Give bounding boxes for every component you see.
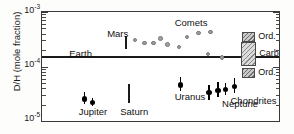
neptune-point-marker <box>215 88 220 93</box>
y-minor-tick <box>42 34 46 35</box>
y-tick-label-1e-5: 10-5 <box>2 113 40 123</box>
neptune-point-marker <box>206 90 211 95</box>
y-tick-label-group: 10-3 10-4 10-5 <box>0 0 40 134</box>
uranus-label: Uranus <box>175 91 206 102</box>
jupiter-label: Jupiter <box>79 106 108 117</box>
y-minor-tick <box>42 14 46 15</box>
y-minor-tick-right <box>276 75 280 76</box>
neptune-point-marker <box>232 84 237 89</box>
y-minor-tick <box>42 88 46 89</box>
chondrite-box-ord-0 <box>242 32 255 41</box>
y-minor-tick-right <box>276 83 280 84</box>
saturn-label: Saturn <box>120 106 148 117</box>
uranus-point-marker <box>178 82 183 87</box>
y-minor-tick <box>42 79 46 80</box>
chondrites-label: Chondrites <box>230 95 276 106</box>
comets-label: Comets <box>175 17 208 28</box>
y-minor-tick <box>42 69 46 70</box>
y-minor-tick <box>42 24 46 25</box>
y-major-tick <box>42 121 48 122</box>
y-minor-tick-right <box>276 69 280 70</box>
y-minor-tick-right <box>276 34 280 35</box>
plot-area: Ord.Carb.Ord. EarthMarsCometsJupiterSatu… <box>41 11 280 122</box>
comet-marker <box>185 35 190 40</box>
earth-label: Earth <box>69 48 92 59</box>
y-minor-tick <box>42 40 46 41</box>
y-minor-tick-right <box>276 79 280 80</box>
y-major-tick <box>42 12 48 13</box>
comet-marker <box>196 31 201 36</box>
y-minor-tick <box>42 17 46 18</box>
jupiter-point-marker <box>90 100 95 105</box>
y-minor-tick-right <box>276 14 280 15</box>
y-major-tick <box>42 67 48 68</box>
y-minor-tick <box>42 105 46 106</box>
comet-marker <box>142 41 147 46</box>
y-minor-tick-right <box>276 88 280 89</box>
comet-marker <box>177 45 182 50</box>
chondrite-box-label: Ord. <box>258 67 276 77</box>
comet-marker <box>220 55 225 60</box>
comet-marker <box>208 30 213 35</box>
comet-marker <box>158 36 163 41</box>
chondrite-box-label: Carb. <box>259 48 280 58</box>
chondrite-box-carb-1 <box>241 42 256 66</box>
y-minor-tick <box>42 20 46 21</box>
comet-marker <box>151 41 156 46</box>
comet-marker <box>165 42 170 47</box>
y-minor-tick-right <box>276 72 280 73</box>
y-minor-tick-right <box>276 40 280 41</box>
neptune-point-marker <box>223 87 228 92</box>
chondrite-box-ord-2 <box>242 68 255 78</box>
y-minor-tick-right <box>276 28 280 29</box>
y-minor-tick-right <box>276 17 280 18</box>
y-minor-tick <box>42 75 46 76</box>
y-tick-label-1e-4: 10-4 <box>2 59 40 69</box>
y-minor-tick <box>42 83 46 84</box>
y-minor-tick-right <box>276 24 280 25</box>
y-minor-tick <box>42 50 46 51</box>
saturn-range-bar <box>128 84 130 103</box>
chondrite-box-label: Ord. <box>258 31 276 41</box>
figure-root: D/H (mole fraction) 10-3 10-4 10-5 Ord.C… <box>0 0 294 134</box>
y-major-tick-right <box>273 12 279 13</box>
y-tick-label-1e-3: 10-3 <box>2 5 40 15</box>
y-minor-tick <box>42 95 46 96</box>
y-minor-tick <box>42 28 46 29</box>
mars-label: Mars <box>107 28 128 39</box>
y-minor-tick <box>42 72 46 73</box>
y-major-tick-right <box>273 121 279 122</box>
jupiter-point-marker <box>82 96 87 101</box>
y-minor-tick-right <box>276 20 280 21</box>
comet-marker <box>133 38 138 43</box>
